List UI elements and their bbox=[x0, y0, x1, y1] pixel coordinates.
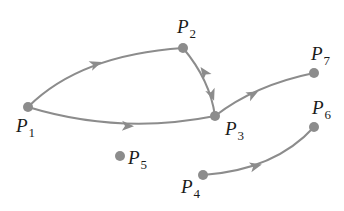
nodes-layer bbox=[23, 43, 319, 180]
arrowhead-icon bbox=[245, 87, 260, 101]
label-p3: P3 bbox=[224, 118, 244, 143]
node-p1 bbox=[23, 102, 33, 112]
edge-line bbox=[203, 127, 314, 175]
edge-p1-p3 bbox=[28, 107, 215, 131]
labels-layer: P1P2P3P4P5P6P7 bbox=[15, 16, 332, 201]
edge-line bbox=[183, 48, 215, 116]
edge-p1-p2 bbox=[28, 48, 183, 107]
node-p4 bbox=[198, 170, 208, 180]
label-p5: P5 bbox=[127, 147, 147, 172]
node-p3 bbox=[210, 111, 220, 121]
node-p2 bbox=[178, 43, 188, 53]
graph-svg: P1P2P3P4P5P6P7 bbox=[0, 0, 344, 211]
edge-line bbox=[28, 48, 183, 107]
edge-p2-p3 bbox=[183, 48, 219, 116]
edges-layer bbox=[28, 48, 314, 175]
graph-diagram: P1P2P3P4P5P6P7 bbox=[0, 0, 344, 211]
node-p6 bbox=[309, 122, 319, 132]
label-p7: P7 bbox=[310, 43, 331, 68]
edge-p4-p6 bbox=[203, 127, 314, 175]
edge-line bbox=[215, 73, 314, 116]
node-p5 bbox=[115, 151, 125, 161]
edge-p3-p7 bbox=[215, 73, 314, 116]
label-p4: P4 bbox=[180, 176, 201, 201]
label-p1: P1 bbox=[15, 115, 35, 140]
arrowhead-icon bbox=[122, 121, 134, 131]
label-p6: P6 bbox=[311, 97, 332, 122]
label-p2: P2 bbox=[176, 16, 196, 41]
node-p7 bbox=[309, 68, 319, 78]
edge-line bbox=[28, 107, 215, 124]
